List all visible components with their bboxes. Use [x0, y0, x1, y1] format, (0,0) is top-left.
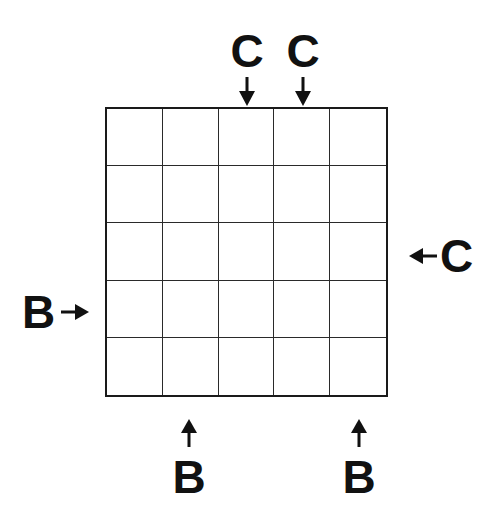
arrow-up-icon	[179, 418, 199, 448]
grid-cell-r3c3[interactable]	[219, 223, 275, 280]
grid-cell-r4c3[interactable]	[219, 281, 275, 338]
grid-cell-r1c2[interactable]	[163, 109, 219, 166]
bottom-clue-col-5: B	[334, 418, 384, 500]
arrow-up-icon	[349, 418, 369, 448]
clue-letter: C	[286, 28, 319, 74]
grid-cell-r1c5[interactable]	[330, 109, 386, 166]
grid-cell-r5c2[interactable]	[163, 338, 219, 395]
grid-cell-r2c3[interactable]	[219, 166, 275, 223]
grid-cell-r4c1[interactable]	[107, 281, 163, 338]
grid-cell-r5c5[interactable]	[330, 338, 386, 395]
grid-cell-r1c3[interactable]	[219, 109, 275, 166]
grid-cell-r2c4[interactable]	[274, 166, 330, 223]
grid-cell-r2c2[interactable]	[163, 166, 219, 223]
grid-cell-r4c2[interactable]	[163, 281, 219, 338]
clue-letter: B	[342, 454, 375, 500]
arrow-down-icon	[237, 77, 257, 107]
left-clue-row-4: B	[22, 287, 90, 337]
arrow-right-icon	[60, 302, 90, 322]
grid-cell-r4c4[interactable]	[274, 281, 330, 338]
top-clue-col-3: C	[222, 28, 272, 107]
arrow-left-icon	[408, 246, 438, 266]
clue-letter: B	[22, 289, 55, 335]
grid-cell-r5c3[interactable]	[219, 338, 275, 395]
grid-cell-r1c1[interactable]	[107, 109, 163, 166]
clue-letter: B	[172, 454, 205, 500]
grid-cell-r3c2[interactable]	[163, 223, 219, 280]
grid-cell-r3c1[interactable]	[107, 223, 163, 280]
arrow-down-icon	[293, 77, 313, 107]
grid-cell-r5c1[interactable]	[107, 338, 163, 395]
grid-cell-r1c4[interactable]	[274, 109, 330, 166]
bottom-clue-col-2: B	[164, 418, 214, 500]
grid-cell-r2c1[interactable]	[107, 166, 163, 223]
clue-letter: C	[230, 28, 263, 74]
right-clue-row-3: C	[408, 231, 473, 281]
grid-cell-r5c4[interactable]	[274, 338, 330, 395]
top-clue-col-4: C	[278, 28, 328, 107]
clue-letter: C	[440, 233, 473, 279]
puzzle-grid	[105, 107, 388, 397]
grid-cell-r3c4[interactable]	[274, 223, 330, 280]
grid-cell-r2c5[interactable]	[330, 166, 386, 223]
grid-cell-r3c5[interactable]	[330, 223, 386, 280]
grid-cell-r4c5[interactable]	[330, 281, 386, 338]
